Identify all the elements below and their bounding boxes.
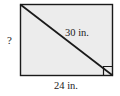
geometry-figure: ? 30 in. 24 in. <box>0 0 120 96</box>
height-unknown-label: ? <box>7 35 12 46</box>
hypotenuse-length-label: 30 in. <box>65 28 89 39</box>
base-length-label: 24 in. <box>54 81 78 92</box>
